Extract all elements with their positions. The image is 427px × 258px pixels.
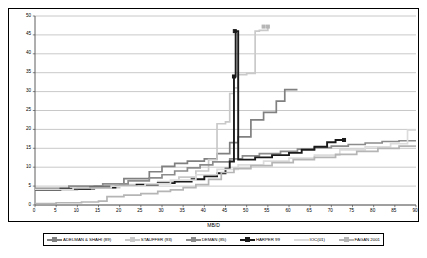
x-tick-label: 50 [240,208,252,213]
x-tick-label: 10 [70,208,82,213]
legend-swatch-icon [47,237,62,243]
series-marker-harper-peak [233,30,236,33]
x-tick-label: 80 [367,208,379,213]
y-tick-label: 15 [18,145,31,150]
x-tick-label: 60 [282,208,294,213]
legend-swatch-icon [240,237,255,243]
x-tick-label: 55 [261,208,273,213]
x-tick-label: 65 [303,208,315,213]
x-tick-label: 5 [49,208,61,213]
x-tick-label: 90 [409,208,421,213]
x-axis-title: MB/D [0,222,427,228]
y-tick-label: 5 [18,183,31,188]
x-tick-label: 20 [113,208,125,213]
series-line-ioc-01 [35,130,416,189]
chart-legend: ADELMAN & SHAHI (89)STAUFFER (93)DEMAN (… [43,233,384,246]
y-tick-label: 10 [18,164,31,169]
series-marker-fagan-peak-2 [266,25,269,28]
series-line-stauffer-93 [35,27,268,190]
legend-swatch-icon [339,237,354,243]
x-tick-label: 85 [388,208,400,213]
y-tick-label: 40 [18,50,31,55]
y-tick-label: 45 [18,31,31,36]
series-marker-fagan-peak [262,25,265,28]
x-tick-label: 40 [197,208,209,213]
x-tick-label: 0 [28,208,40,213]
chart-plot-frame [8,8,419,222]
legend-item-deman-85[interactable]: DEMAN (85) [186,237,226,243]
series-line-deman-85 [35,141,416,189]
plot-area [9,9,420,223]
legend-label: ADELMAN & SHAHI (89) [63,237,111,243]
legend-item-harper-99[interactable]: HARPER 99 [240,237,280,243]
y-tick-label: 50 [18,13,31,18]
x-tick-label: 30 [155,208,167,213]
legend-item-ioc-01[interactable]: IOC(01) [294,237,325,243]
series-line-fagan-2001 [35,146,416,203]
x-tick-label: 25 [134,208,146,213]
y-tick-label: 30 [18,88,31,93]
chart-svg [9,9,420,223]
chart-screenshot: 05101520253035404550 0510152025303540455… [0,0,427,258]
y-tick-label: 25 [18,107,31,112]
x-tick-label: 35 [176,208,188,213]
legend-label: STAUFFER (93) [141,237,172,243]
legend-label: HARPER 99 [256,237,280,243]
legend-label: FAGAN 2001 [355,237,380,243]
x-tick-label: 70 [324,208,336,213]
x-tick-label: 75 [346,208,358,213]
legend-swatch-icon [294,237,309,243]
series-marker-harper-end [343,138,346,141]
y-tick-label: 35 [18,69,31,74]
x-tick-label: 45 [219,208,231,213]
y-tick-label: 0 [18,202,31,207]
y-tick-label: 20 [18,126,31,131]
legend-item-adelman-shahi-89[interactable]: ADELMAN & SHAHI (89) [47,237,111,243]
legend-item-stauffer-93[interactable]: STAUFFER (93) [125,237,172,243]
legend-swatch-icon [186,237,201,243]
legend-swatch-icon [125,237,140,243]
series-marker-harper-mid [232,75,235,78]
x-tick-label: 15 [92,208,104,213]
legend-item-fagan-2001[interactable]: FAGAN 2001 [339,237,380,243]
legend-label: DEMAN (85) [202,237,226,243]
legend-label: IOC(01) [310,237,325,243]
